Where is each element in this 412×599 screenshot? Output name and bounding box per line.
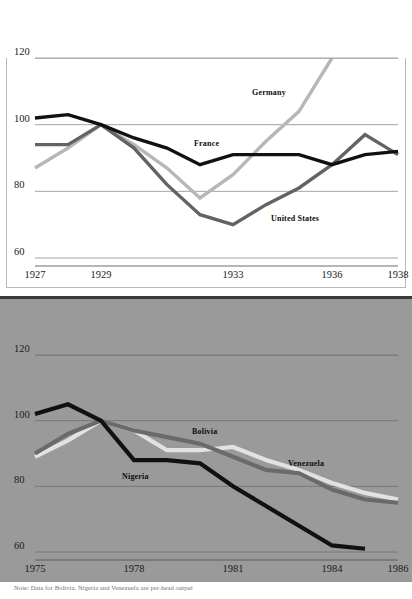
x-tick-label: 1978 bbox=[124, 563, 145, 574]
series-label-venezuela: Venezuela bbox=[288, 459, 324, 468]
figure-page: Great Depression Index (1929 = 100) 6080… bbox=[0, 0, 412, 599]
x-tick-label: 1929 bbox=[91, 269, 112, 280]
series-line-germany bbox=[35, 58, 332, 198]
x-tick-label: 1986 bbox=[388, 563, 409, 574]
figure-footnote: Note: Data for Bolivia, Nigeria and Vene… bbox=[14, 584, 193, 591]
y-tick-label: 120 bbox=[14, 46, 30, 57]
x-tick-label: 1936 bbox=[322, 269, 343, 280]
series-label-germany: Germany bbox=[252, 88, 286, 97]
x-tick-label: 1975 bbox=[25, 563, 46, 574]
y-tick-label: 60 bbox=[14, 540, 25, 551]
plot-area-great-depression: 608010012019271929193319361938GermanyFra… bbox=[0, 0, 412, 296]
top-mask bbox=[0, 0, 412, 58]
x-tick-label: 1927 bbox=[25, 269, 46, 280]
y-tick-label: 60 bbox=[14, 246, 25, 257]
x-tick-label: 1938 bbox=[388, 269, 409, 280]
y-tick-label: 80 bbox=[14, 179, 25, 190]
series-label-france: France bbox=[194, 139, 219, 148]
panel-great-depression: Great Depression Index (1929 = 100) 6080… bbox=[0, 0, 412, 296]
y-tick-label: 120 bbox=[14, 343, 30, 354]
panel-current-crisis: Current crisis Index (1977 = 100) 608010… bbox=[0, 296, 412, 582]
x-tick-label: 1933 bbox=[223, 269, 244, 280]
chart-canvas bbox=[0, 0, 412, 296]
y-tick-label: 100 bbox=[14, 409, 30, 420]
plot-area-current-crisis: 608010012019751978198119841986BoliviaVen… bbox=[0, 296, 412, 582]
figure-footnote-area: Note: Data for Bolivia, Nigeria and Vene… bbox=[0, 582, 412, 599]
chart-canvas bbox=[0, 296, 412, 582]
x-tick-label: 1984 bbox=[322, 563, 343, 574]
y-tick-label: 80 bbox=[14, 474, 25, 485]
x-tick-label: 1981 bbox=[223, 563, 244, 574]
series-label-united-states: United States bbox=[271, 214, 319, 223]
series-label-bolivia: Bolivia bbox=[192, 427, 217, 436]
series-label-nigeria: Nigeria bbox=[122, 472, 149, 481]
y-tick-label: 100 bbox=[14, 113, 30, 124]
top-mask bbox=[0, 296, 412, 355]
